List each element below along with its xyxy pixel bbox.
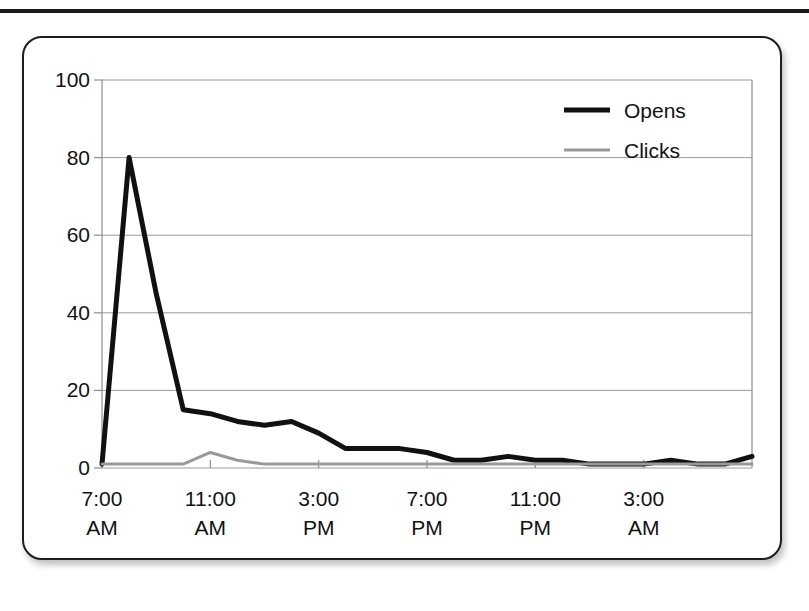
x-tick-label-time-4: 11:00 <box>510 487 561 510</box>
x-tick-label-meridiem-5: AM <box>628 516 660 539</box>
chart-plot-area: 020406080100 7:00AM11:00AM3:00PM7:00PM11… <box>24 38 784 562</box>
x-tick-label-meridiem-0: AM <box>86 516 118 539</box>
y-tick-label-100: 100 <box>55 68 90 91</box>
x-tick-label-meridiem-2: PM <box>303 516 335 539</box>
y-tick-label-60: 60 <box>67 223 90 246</box>
x-tick-label-time-2: 3:00 <box>298 487 339 510</box>
y-tick-label-20: 20 <box>67 378 90 401</box>
data-series-group <box>102 158 752 465</box>
y-tick-label-0: 0 <box>78 456 90 479</box>
x-tick-label-time-3: 7:00 <box>407 487 448 510</box>
y-tick-label-40: 40 <box>67 301 90 324</box>
x-tick-label-time-0: 7:00 <box>82 487 123 510</box>
y-tick-label-80: 80 <box>67 146 90 169</box>
legend-label-clicks: Clicks <box>624 139 680 162</box>
x-tick-label-time-1: 11:00 <box>185 487 236 510</box>
y-axis-tick-labels: 020406080100 <box>55 68 102 479</box>
x-tick-label-time-5: 3:00 <box>623 487 664 510</box>
chart-card: 020406080100 7:00AM11:00AM3:00PM7:00PM11… <box>22 36 782 560</box>
x-tick-label-meridiem-1: AM <box>195 516 227 539</box>
series-line-opens <box>102 158 752 465</box>
page-top-rule <box>0 9 809 13</box>
legend-label-opens: Opens <box>624 99 686 122</box>
chart-legend: OpensClicks <box>564 99 686 162</box>
x-tick-label-meridiem-3: PM <box>411 516 443 539</box>
line-chart-svg: 020406080100 7:00AM11:00AM3:00PM7:00PM11… <box>24 38 784 562</box>
x-tick-label-meridiem-4: PM <box>520 516 552 539</box>
x-axis-tick-labels: 7:00AM11:00AM3:00PM7:00PM11:00PM3:00AM <box>82 487 665 539</box>
